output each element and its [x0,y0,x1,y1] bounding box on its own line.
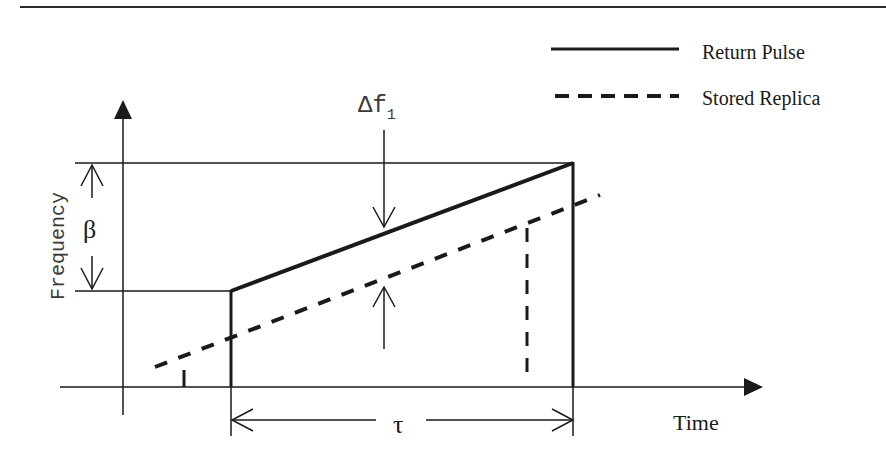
chirp-diagram: Return Pulse Stored Replica Frequency Ti… [0,0,886,459]
freq-offset-label: Δf1 [358,92,396,124]
y-axis: Frequency [47,100,132,415]
freq-offset-subscript: 1 [387,107,396,124]
y-axis-label: Frequency [47,192,70,300]
x-axis: Time [60,378,763,435]
bandwidth-symbol: β [83,215,96,244]
legend-label-return-pulse: Return Pulse [702,41,805,63]
x-axis-arrowhead-icon [744,378,763,396]
pulse-width-symbol: τ [393,410,403,439]
return-pulse [231,162,573,387]
x-axis-label: Time [673,410,719,435]
legend-label-stored-replica: Stored Replica [702,87,820,110]
legend: Return Pulse Stored Replica [551,41,820,110]
y-axis-arrowhead-icon [114,100,132,119]
